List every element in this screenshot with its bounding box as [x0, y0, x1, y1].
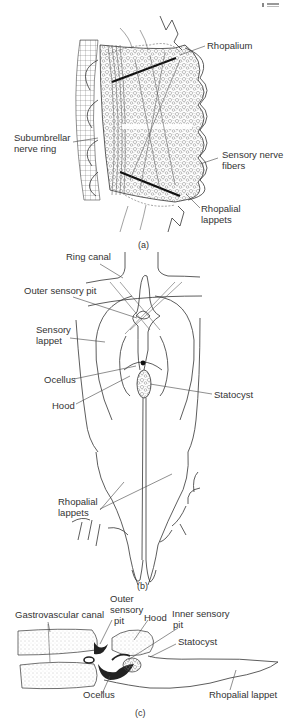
caption-a: (a): [138, 240, 149, 250]
caption-c: (c): [135, 708, 146, 718]
label-inner-sensory-pit-1: Inner sensory: [172, 608, 230, 619]
label-outer-sensory-pit-c-1: Outer: [110, 593, 134, 604]
panel-a-illustration: [76, 16, 207, 232]
panel-c-illustration: [18, 624, 278, 689]
page-number-fragment: [262, 3, 279, 7]
panel-b-illustration: [72, 252, 202, 585]
label-rhopalial-lappets-2: lappets: [201, 214, 232, 225]
figure-canvas: Rhopalium Subumbrellar nerve ring Sensor…: [0, 0, 296, 727]
label-subumbrellar-nerve-ring-2: nerve ring: [14, 143, 56, 154]
label-sensory-lappet-1: Sensory: [36, 324, 71, 335]
label-rhopalium: Rhopalium: [207, 40, 252, 51]
label-outer-sensory-pit: Outer sensory pit: [24, 285, 97, 296]
label-gastrovascular-canal: Gastrovascular canal: [15, 609, 104, 620]
label-hood-c: Hood: [144, 612, 167, 623]
label-sensory-nerve-fibers-2: fibers: [222, 160, 245, 171]
label-outer-sensory-pit-c-2: sensory: [110, 604, 144, 615]
label-subumbrellar-nerve-ring-1: Subumbrellar: [14, 132, 71, 143]
label-sensory-nerve-fibers-1: Sensory nerve: [222, 149, 283, 160]
label-outer-sensory-pit-c-3: pit: [114, 615, 124, 626]
label-rhopalial-lappet-c: Rhopalial lappet: [209, 689, 277, 700]
label-rhopalial-lappets-1: Rhopalial: [201, 203, 241, 214]
label-ring-canal: Ring canal: [66, 251, 111, 262]
ocellus-dot: [141, 361, 146, 366]
label-ocellus-b: Ocellus: [44, 374, 76, 385]
label-statocyst-c: Statocyst: [178, 636, 217, 647]
label-hood-b: Hood: [52, 400, 75, 411]
label-statocyst-b: Statocyst: [214, 389, 253, 400]
caption-b: (b): [137, 581, 148, 591]
label-rhopalial-lappets-b-1: Rhopalial: [58, 496, 98, 507]
label-ocellus-c: Ocellus: [83, 689, 115, 700]
label-inner-sensory-pit-2: pit: [173, 619, 183, 630]
label-sensory-lappet-2: lappet: [36, 335, 62, 346]
label-rhopalial-lappets-b-2: lappets: [58, 507, 89, 518]
